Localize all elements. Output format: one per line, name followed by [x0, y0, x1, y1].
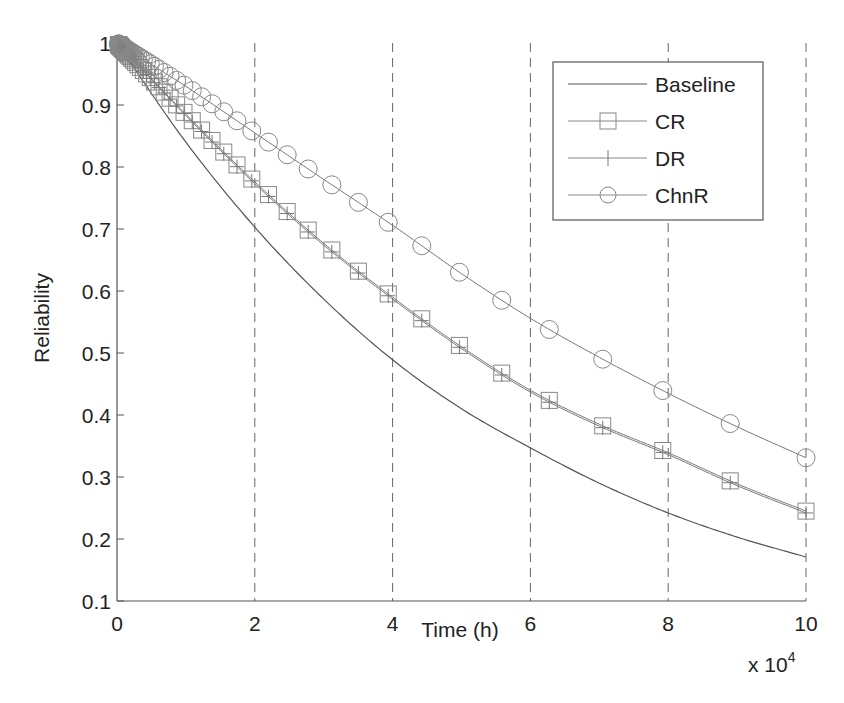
x-tick-label: 0: [111, 612, 123, 635]
legend-label-cr: CR: [655, 110, 685, 133]
plus-marker-icon: [723, 476, 737, 490]
x-tick-label: 4: [387, 612, 399, 635]
legend-label-dr: DR: [655, 147, 685, 170]
y-tick-label: 0.4: [82, 404, 112, 427]
x-tick-label: 6: [525, 612, 537, 635]
plus-marker-icon: [381, 289, 395, 303]
y-tick-label: 0.3: [82, 466, 111, 489]
y-tick-label: 0.9: [82, 94, 111, 117]
y-tick-label: 0.6: [82, 280, 111, 303]
plus-marker-icon: [656, 445, 670, 459]
y-tick-label: 0.1: [82, 590, 111, 613]
legend-label-chnr: ChnR: [655, 184, 709, 207]
y-tick-label: 0.7: [82, 218, 111, 241]
x-axis-label: Time (h): [421, 618, 498, 641]
plus-marker-icon: [799, 506, 813, 520]
x-multiplier-exponent: 4: [788, 649, 796, 665]
y-tick-label: 0.5: [82, 342, 111, 365]
legend: Baseline CR DR ChnR: [553, 62, 763, 220]
plus-marker-icon: [325, 245, 339, 259]
x-axis-multiplier: x 104: [748, 649, 796, 676]
legend-label-baseline: Baseline: [655, 73, 736, 96]
y-tick-label: 0.8: [82, 156, 111, 179]
y-axis-label: Reliability: [30, 273, 53, 363]
reliability-chart: 0.10.20.30.40.50.60.70.80.910246810 Time…: [0, 0, 844, 703]
x-tick-label: 8: [662, 612, 674, 635]
x-multiplier-base: x 10: [748, 653, 788, 676]
x-tick-label: 10: [794, 612, 817, 635]
plus-marker-icon: [351, 266, 365, 280]
x-tick-label: 2: [249, 612, 261, 635]
y-tick-label: 0.2: [82, 528, 111, 551]
plus-marker-icon: [596, 421, 610, 435]
